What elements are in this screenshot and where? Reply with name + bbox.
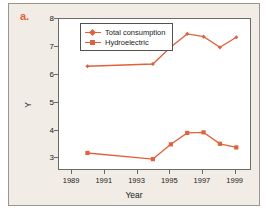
y-tick-label: 3	[38, 153, 54, 162]
y-tick-mark	[54, 130, 58, 131]
legend-item-hydroelectric: Hydroelectric	[85, 37, 165, 47]
y-tick-mark	[54, 102, 58, 103]
x-tick-label: 1995	[161, 176, 178, 185]
data-point	[85, 64, 89, 68]
y-tick-label: 5	[38, 97, 54, 106]
y-tick-mark	[54, 18, 58, 19]
x-tick-label: 1993	[128, 176, 145, 185]
x-tick-label: 1999	[226, 176, 243, 185]
x-tick-mark	[104, 170, 105, 174]
legend-label: Hydroelectric	[105, 38, 149, 47]
y-tick-label: 8	[38, 14, 54, 23]
data-point	[218, 142, 222, 146]
series-line	[87, 132, 236, 159]
x-tick-mark	[202, 170, 203, 174]
legend-marker-square-icon	[85, 37, 101, 47]
data-point	[234, 145, 238, 149]
data-point	[169, 142, 173, 146]
x-tick-label: 1989	[63, 176, 80, 185]
data-point	[201, 130, 205, 134]
plot-area: 345678 198919911993199519971999 Total co…	[58, 18, 251, 170]
data-point	[151, 157, 155, 161]
legend: Total consumption Hydroelectric	[80, 23, 173, 51]
figure-panel: a. Y Year 345678 19891991199319951997199…	[8, 3, 260, 206]
y-tick-label: 7	[38, 41, 54, 50]
y-axis-title: Y	[23, 102, 33, 108]
legend-marker-diamond-icon	[85, 27, 101, 37]
x-tick-label: 1997	[194, 176, 211, 185]
y-tick-mark	[54, 74, 58, 75]
y-tick-mark	[54, 157, 58, 158]
x-tick-mark	[137, 170, 138, 174]
y-tick-label: 4	[38, 125, 54, 134]
legend-label: Total consumption	[105, 28, 165, 37]
x-tick-label: 1991	[95, 176, 112, 185]
x-axis-title: Year	[9, 190, 259, 200]
y-tick-mark	[54, 46, 58, 47]
x-tick-mark	[235, 170, 236, 174]
y-tick-label: 6	[38, 69, 54, 78]
x-tick-mark	[71, 170, 72, 174]
panel-label: a.	[20, 10, 29, 22]
series-2	[85, 130, 238, 161]
legend-item-total-consumption: Total consumption	[85, 27, 165, 37]
x-tick-mark	[169, 170, 170, 174]
data-point	[85, 151, 89, 155]
data-point	[185, 131, 189, 135]
